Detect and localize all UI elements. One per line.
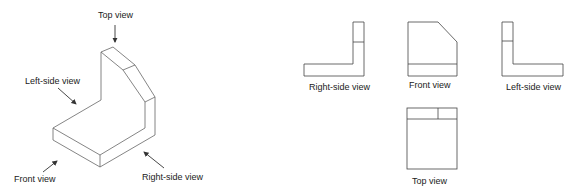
left-side-view-drawing bbox=[502, 22, 563, 76]
iso-left-side-view-label: Left-side view bbox=[25, 76, 80, 86]
front-view-arrow bbox=[43, 161, 57, 172]
ortho-top-view-label: Top view bbox=[412, 176, 447, 186]
ortho-left-side-view-label: Left-side view bbox=[506, 82, 561, 92]
iso-right-side-view-label: Right-side view bbox=[142, 172, 203, 182]
top-view-drawing bbox=[407, 108, 457, 169]
left-side-view-arrow bbox=[58, 88, 76, 104]
drawing-canvas bbox=[0, 0, 582, 195]
isometric-object bbox=[53, 47, 155, 167]
right-side-view-drawing bbox=[304, 22, 364, 76]
front-view-drawing bbox=[408, 22, 457, 76]
ortho-front-view-label: Front view bbox=[409, 80, 451, 90]
view-arrows bbox=[43, 25, 164, 172]
iso-front-view-label: Front view bbox=[14, 174, 56, 184]
ortho-right-side-view-label: Right-side view bbox=[309, 82, 370, 92]
right-side-view-arrow bbox=[144, 152, 164, 168]
iso-top-view-label: Top view bbox=[98, 10, 133, 20]
